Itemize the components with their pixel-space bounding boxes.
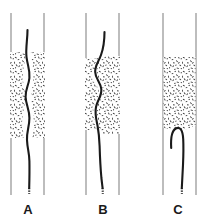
plaque-occlusion-c (161, 55, 199, 133)
panel-c (161, 13, 199, 195)
panel-label-a: A (16, 203, 40, 217)
panel-a (8, 13, 48, 195)
plaque-right-a (28, 50, 48, 142)
diagram-canvas (0, 0, 205, 224)
figure-container: A B C (0, 0, 205, 224)
panel-label-b: B (91, 203, 115, 217)
plaque-right-b (95, 54, 121, 136)
guidewire-c (171, 128, 183, 188)
panel-label-c: C (166, 203, 190, 217)
guidewire-a (26, 30, 30, 188)
panel-b (83, 13, 121, 195)
